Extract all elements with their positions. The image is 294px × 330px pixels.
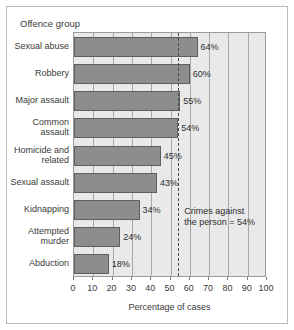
category-label: Sexual abuse [1,41,69,51]
category-label: Major assault [1,95,69,105]
bar [74,118,178,138]
plot-area: 64%60%55%54%45%43%34%24%18%Crimes agains… [73,32,266,277]
x-axis-tick-label: 50 [164,283,174,293]
x-axis-tick [170,277,171,280]
x-axis-tick-label: 40 [145,283,155,293]
category-label-line: Major assault [1,95,69,105]
category-label-line: related [1,155,69,165]
bar-value-label: 18% [112,254,130,274]
category-label: Robbery [1,68,69,78]
x-axis-tick-label: 60 [184,283,194,293]
bar [74,254,109,274]
category-label-line: assault [1,127,69,137]
x-axis-tick-label: 0 [70,283,75,293]
bar-value-label: 64% [201,37,219,57]
bar [74,91,180,111]
category-label-line: Robbery [1,68,69,78]
category-label-line: Common [1,117,69,127]
x-axis-tick-label: 70 [203,283,213,293]
x-axis-tick [112,277,113,280]
bar-value-label: 54% [181,118,199,138]
category-label-line: murder [1,236,69,246]
x-axis-title: Percentage of cases [73,302,266,312]
x-axis-tick [208,277,209,280]
chart-figure: Offence group Sexual abuseRobberyMajor a… [0,0,294,330]
x-axis-tick [247,277,248,280]
bar [74,227,120,247]
x-axis-tick-label: 80 [222,283,232,293]
category-label-line: Attempted [1,226,69,236]
category-label-column: Sexual abuseRobberyMajor assaultCommonas… [0,32,69,277]
category-label: Kidnapping [1,204,69,214]
bar-value-label: 60% [193,64,211,84]
bar [74,200,140,220]
gridline [190,33,191,276]
x-axis-tick [150,277,151,280]
bar-value-label: 43% [160,173,178,193]
category-label-line: Sexual assault [1,177,69,187]
category-axis-header: Offence group [20,18,80,29]
category-label: Sexual assault [1,177,69,187]
reference-line [178,33,179,276]
category-label-line: Kidnapping [1,204,69,214]
x-axis-tick-label: 90 [242,283,252,293]
gridline [248,33,249,276]
x-axis-tick [189,277,190,280]
annotation-line-2: the person = 54% [184,217,255,228]
category-label: Attemptedmurder [1,226,69,246]
bar-value-label: 55% [183,91,201,111]
x-axis-tick [266,277,267,280]
bar [74,64,190,84]
bar [74,173,157,193]
bar-value-label: 34% [143,200,161,220]
x-axis-tick [92,277,93,280]
x-axis-tick [131,277,132,280]
x-axis-tick-label: 30 [126,283,136,293]
x-axis-tick [227,277,228,280]
x-axis-tick-label: 100 [258,283,273,293]
bar [74,146,161,166]
bar-value-label: 24% [123,227,141,247]
category-label: Abduction [1,258,69,268]
category-label-line: Homicide and [1,145,69,155]
reference-line-annotation: Crimes againstthe person = 54% [184,206,255,228]
category-label-line: Sexual abuse [1,41,69,51]
category-label-line: Abduction [1,258,69,268]
x-axis-tick [73,277,74,280]
x-axis-tick-label: 20 [107,283,117,293]
annotation-line-1: Crimes against [184,206,255,217]
category-label: Homicide andrelated [1,145,69,165]
gridline [228,33,229,276]
category-label: Commonassault [1,117,69,137]
x-axis-tick-label: 10 [87,283,97,293]
